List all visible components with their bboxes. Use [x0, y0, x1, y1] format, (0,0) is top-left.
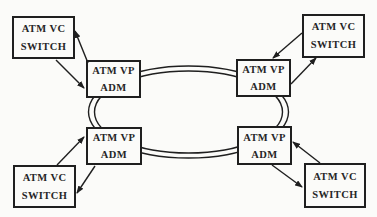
node-label-line1: ATM VP [93, 129, 136, 146]
node-atm-vc-switch-top-right: ATM VC SWITCH [302, 14, 365, 58]
node-label-line2: SWITCH [311, 36, 357, 54]
node-label-line2: SWITCH [21, 38, 67, 56]
node-label-line1: ATM VC [23, 169, 67, 187]
node-label-line1: ATM VC [313, 168, 357, 186]
node-label-line2: SWITCH [312, 186, 358, 204]
node-label-line2: SWITCH [22, 187, 68, 205]
node-atm-vc-switch-bottom-right: ATM VC SWITCH [304, 163, 366, 208]
node-label-line1: ATM VP [92, 62, 135, 79]
node-label-line1: ATM VP [242, 61, 285, 78]
node-label-line2: ADM [101, 146, 127, 163]
node-label-line1: ATM VC [22, 20, 66, 38]
node-label-line1: ATM VC [312, 18, 356, 36]
node-atm-vc-switch-top-left: ATM VC SWITCH [12, 16, 75, 59]
node-atm-vp-adm-top-left: ATM VP ADM [86, 60, 141, 98]
node-label-line2: ADM [250, 78, 276, 95]
node-layer: ATM VC SWITCH ATM VC SWITCH ATM VC SWITC… [0, 0, 377, 217]
node-atm-vp-adm-bottom-left: ATM VP ADM [86, 127, 142, 165]
node-atm-vp-adm-bottom-right: ATM VP ADM [237, 126, 292, 165]
node-label-line2: ADM [251, 146, 277, 163]
node-label-line1: ATM VP [243, 129, 286, 146]
atm-network-diagram: ATM VC SWITCH ATM VC SWITCH ATM VC SWITC… [0, 0, 377, 217]
node-label-line2: ADM [100, 79, 126, 96]
node-atm-vp-adm-top-right: ATM VP ADM [236, 59, 291, 97]
node-atm-vc-switch-bottom-left: ATM VC SWITCH [13, 165, 76, 208]
